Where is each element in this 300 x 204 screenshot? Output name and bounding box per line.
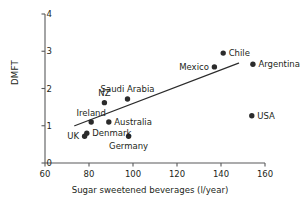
data-point-denmark [84, 131, 89, 136]
y-tick-label-2: 2 [38, 84, 52, 93]
point-label-saudi-arabia: Saudi Arabia [101, 85, 155, 94]
data-point-saudi-arabia [125, 96, 130, 101]
point-label-chile: Chile [229, 49, 250, 58]
y-axis-title: DMFT [11, 60, 20, 85]
y-tick-label-4: 4 [38, 10, 52, 19]
x-tick-label-4: 140 [213, 170, 229, 179]
y-tick-label-1: 1 [38, 122, 52, 131]
data-point-australia [106, 119, 111, 124]
plot-area: 012346080100120140160 UKDenmarkIrelandNZ… [0, 0, 300, 204]
point-label-australia: Australia [114, 118, 152, 127]
data-point-usa [249, 113, 254, 118]
point-label-denmark: Denmark [92, 129, 131, 138]
x-tick-label-5: 160 [257, 170, 273, 179]
point-label-usa: USA [257, 111, 275, 120]
point-label-germany: Germany [109, 142, 148, 151]
scatter-chart: 012346080100120140160 UKDenmarkIrelandNZ… [0, 0, 300, 204]
x-axis-title: Sugar sweetened beverages (l/year) [72, 186, 229, 195]
point-label-ireland: Ireland [76, 108, 105, 117]
data-point-nz [102, 100, 107, 105]
point-label-argentina: Argentina [258, 60, 299, 69]
x-tick-label-2: 100 [125, 170, 141, 179]
data-point-argentina [250, 62, 255, 67]
x-tick-label-0: 60 [40, 170, 51, 179]
data-point-chile [221, 50, 226, 55]
x-tick-label-3: 120 [169, 170, 185, 179]
y-tick-label-0: 0 [38, 159, 52, 168]
data-point-mexico [212, 64, 217, 69]
data-point-ireland [89, 119, 94, 124]
point-label-mexico: Mexico [179, 63, 209, 72]
y-tick-label-3: 3 [38, 47, 52, 56]
x-tick-label-1: 80 [84, 170, 95, 179]
point-label-uk: UK [67, 132, 79, 141]
